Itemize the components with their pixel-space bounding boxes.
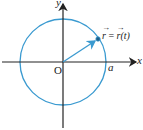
point-on-circle	[96, 37, 100, 41]
vector-r-lhs: →r	[102, 30, 106, 41]
position-vector	[63, 41, 95, 62]
x-axis-label: x	[137, 55, 142, 66]
vector-r-rhs: →r(t)	[117, 30, 130, 41]
circle-diagram	[0, 0, 143, 130]
vector-label: →r = →r(t)	[102, 31, 130, 41]
radius-label: a	[108, 62, 114, 73]
y-axis-label: y	[56, 0, 61, 8]
origin-label: O	[54, 65, 62, 76]
